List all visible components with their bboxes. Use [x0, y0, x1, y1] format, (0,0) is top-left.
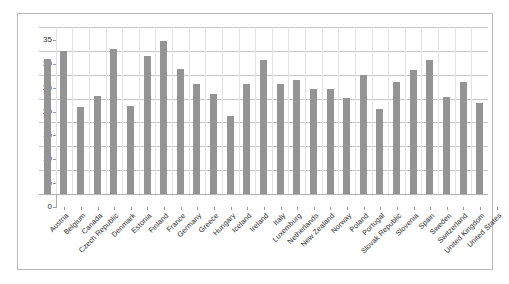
x-axis-tick-mark [314, 207, 315, 210]
bar [94, 96, 101, 194]
bar [60, 51, 67, 194]
x-axis-tick-mark [181, 207, 182, 210]
bar [210, 94, 217, 194]
x-axis-tick-mark [98, 207, 99, 210]
x-axis-tick-mark [430, 207, 431, 210]
bar [227, 116, 234, 194]
category-separator [56, 27, 57, 194]
bar [310, 89, 317, 194]
bar [243, 84, 250, 194]
chart-frame: 05101520253035 AustriaBelgiumCanadaCzech… [17, 13, 493, 270]
bar [177, 69, 184, 194]
x-axis-tick-mark [463, 207, 464, 210]
category-separator [255, 27, 256, 194]
category-separator [338, 27, 339, 194]
bar [260, 60, 267, 194]
bar [360, 75, 367, 194]
bar [44, 59, 51, 194]
x-axis-tick-mark [480, 207, 481, 210]
category-separator [122, 27, 123, 194]
category-separator [239, 27, 240, 194]
x-axis-tick-mark [364, 207, 365, 210]
bar [327, 89, 334, 194]
category-separator [272, 27, 273, 194]
category-separator [288, 27, 289, 194]
x-axis-tick-mark [447, 207, 448, 210]
category-separator [388, 27, 389, 194]
bar [193, 84, 200, 194]
x-axis-tick-mark [380, 207, 381, 210]
category-separator [322, 27, 323, 194]
bar [343, 98, 350, 194]
bar [410, 70, 417, 194]
x-axis-tick-mark [247, 207, 248, 210]
category-separator [106, 27, 107, 194]
x-axis-tick-mark [347, 207, 348, 210]
category-separator [205, 27, 206, 194]
x-axis-tick-mark [497, 207, 498, 210]
category-separator [455, 27, 456, 194]
category-separator [139, 27, 140, 194]
bar [460, 82, 467, 194]
bar [476, 103, 483, 194]
bar [443, 97, 450, 194]
category-separator [72, 27, 73, 194]
x-axis-tick-mark [330, 207, 331, 210]
category-separator [421, 27, 422, 194]
category-separator [155, 27, 156, 194]
category-separator [405, 27, 406, 194]
x-axis-tick-mark [164, 207, 165, 210]
x-axis-tick-mark [81, 207, 82, 210]
bar [376, 109, 383, 194]
category-separator [372, 27, 373, 194]
bar [127, 106, 134, 194]
x-axis-tick-mark [264, 207, 265, 210]
x-axis-tick-mark [397, 207, 398, 210]
x-axis-tick-mark [131, 207, 132, 210]
gridline [39, 194, 488, 195]
chart-plot-wrapper: 05101520253035 AustriaBelgiumCanadaCzech… [18, 14, 492, 269]
x-axis-tick-mark [64, 207, 65, 210]
x-axis-tick-mark [114, 207, 115, 210]
x-axis-tick-mark [231, 207, 232, 210]
bar [293, 80, 300, 195]
category-separator [438, 27, 439, 194]
category-separator [89, 27, 90, 194]
bar [144, 56, 151, 194]
y-axis-tick-label: 0 [32, 203, 52, 211]
category-separator [172, 27, 173, 194]
chart-plot-area [39, 27, 488, 194]
bar [110, 49, 117, 194]
category-separator [305, 27, 306, 194]
bar [160, 41, 167, 194]
bar [277, 84, 284, 194]
bar [426, 60, 433, 194]
category-separator [471, 27, 472, 194]
x-axis-tick-mark [297, 207, 298, 210]
x-axis-label-group: AustriaBelgiumCanadaCzech RepublicDenmar… [56, 209, 505, 283]
bar [393, 82, 400, 194]
bar [77, 107, 84, 194]
x-axis-tick-mark [214, 207, 215, 210]
category-separator [355, 27, 356, 194]
category-separator [189, 27, 190, 194]
x-axis-tick-mark [197, 207, 198, 210]
y-axis-tick-mark [53, 207, 56, 208]
category-separator [222, 27, 223, 194]
x-axis-tick-mark [147, 207, 148, 210]
